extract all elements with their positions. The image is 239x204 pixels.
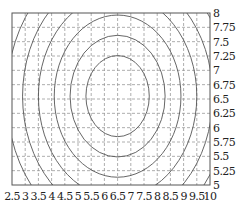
y-tick-label: 5.5: [213, 150, 229, 163]
grid-lines: [12, 13, 210, 185]
y-tick-label: 6.25: [213, 107, 236, 120]
y-tick-label: 7.75: [213, 21, 236, 34]
contour-chart: 2.533.544.555.566.577.588.599.510 55.255…: [0, 0, 239, 204]
x-tick-label: 8.5: [163, 190, 179, 203]
y-tick-label: 7.25: [213, 50, 236, 63]
plot-frame: [12, 13, 210, 185]
contour-line: [0, 0, 239, 204]
y-tick-label: 5.25: [213, 165, 236, 178]
x-tick-label: 8: [154, 190, 161, 203]
x-tick-label: 3.5: [31, 190, 47, 203]
y-tick-label: 6: [213, 122, 220, 135]
x-tick-label: 5.5: [83, 190, 99, 203]
x-tick-label: 7.5: [136, 190, 152, 203]
x-tick-label: 3: [22, 190, 29, 203]
y-tick-label: 6.75: [213, 79, 236, 92]
x-axis-ticks: 2.533.544.555.566.577.588.599.510: [4, 190, 217, 203]
y-tick-label: 7.5: [213, 36, 229, 49]
x-tick-label: 4: [48, 190, 55, 203]
y-axis-ticks: 55.255.55.7566.256.56.7577.257.57.758: [213, 7, 236, 192]
x-tick-label: 6: [101, 190, 108, 203]
x-tick-label: 6.5: [110, 190, 126, 203]
y-tick-label: 5: [213, 179, 220, 192]
y-tick-label: 8: [213, 7, 220, 20]
contour-lines: [0, 0, 239, 204]
y-tick-label: 7: [213, 64, 220, 77]
x-tick-label: 5: [75, 190, 82, 203]
contour-line: [0, 0, 239, 204]
x-tick-label: 7: [128, 190, 135, 203]
contour-line: [0, 0, 239, 204]
y-tick-label: 5.75: [213, 136, 236, 149]
x-tick-label: 4.5: [57, 190, 73, 203]
x-tick-label: 2.5: [4, 190, 20, 203]
y-tick-label: 6.5: [213, 93, 229, 106]
x-tick-label: 9: [180, 190, 187, 203]
